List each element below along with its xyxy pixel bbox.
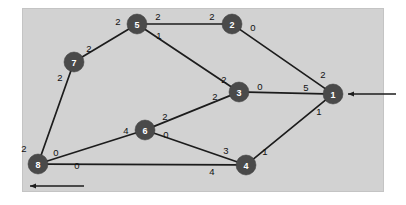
node-label-8: 8: [35, 160, 40, 170]
label-6-3-at-3: 2: [212, 91, 217, 102]
label-2-1-at-2: 0: [250, 22, 255, 33]
label-4-1-at-4: 1: [262, 146, 267, 157]
label-3-1-at-1: 5: [303, 82, 308, 93]
graph-canvas: 52731684 2222120205224003042211: [0, 0, 406, 205]
label-8-4-at-8: 0: [74, 160, 79, 171]
nodes-group: 52731684: [28, 14, 343, 175]
label-7-5-at-7: 2: [86, 43, 91, 54]
node-5[interactable]: 5: [127, 14, 147, 34]
node-label-7: 7: [71, 58, 76, 68]
label-8-6-at-8: 0: [53, 147, 58, 158]
label-7-8-at-8: 2: [21, 143, 26, 154]
edge-7-8: [41, 70, 71, 155]
node-7[interactable]: 7: [64, 52, 84, 72]
node-label-3: 3: [236, 88, 241, 98]
label-5-3-at-5: 1: [156, 30, 161, 41]
graph-figure: 52731684 2222120205224003042211: [0, 0, 406, 205]
node-1[interactable]: 1: [323, 84, 343, 104]
label-5-3-at-3: 2: [221, 74, 226, 85]
label-6-3-at-6: 2: [162, 111, 167, 122]
node-label-1: 1: [330, 90, 335, 100]
label-5-2-at-2: 2: [209, 11, 214, 22]
node-label-2: 2: [229, 20, 234, 30]
edge-3-1: [248, 92, 324, 94]
edge-2-1: [239, 29, 325, 89]
edges-group: [41, 24, 326, 165]
label-5-2-at-5: 2: [155, 11, 160, 22]
node-8[interactable]: 8: [28, 154, 48, 174]
node-4[interactable]: 4: [236, 155, 256, 175]
label-2-1-at-1: 2: [320, 69, 325, 80]
node-label-4: 4: [243, 161, 248, 171]
node-2[interactable]: 2: [222, 14, 242, 34]
node-6[interactable]: 6: [135, 120, 155, 140]
label-8-6-at-6: 4: [123, 125, 128, 136]
label-4-1-at-1: 1: [316, 106, 321, 117]
label-7-5-at-5: 2: [115, 16, 120, 27]
node-3[interactable]: 3: [229, 82, 249, 102]
edge-8-6: [47, 133, 137, 162]
label-3-1-at-3: 0: [257, 81, 262, 92]
label-6-4-at-4: 3: [223, 145, 228, 156]
label-8-4-at-4: 4: [209, 166, 214, 177]
node-label-5: 5: [134, 20, 139, 30]
label-6-4-at-6: 0: [163, 129, 168, 140]
label-7-8-at-7: 2: [57, 72, 62, 83]
node-label-6: 6: [142, 126, 147, 136]
